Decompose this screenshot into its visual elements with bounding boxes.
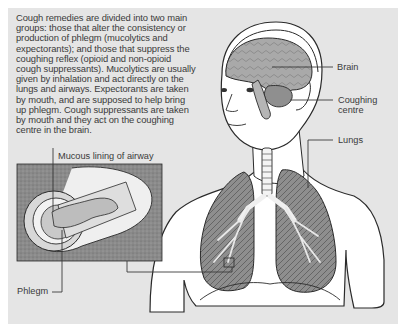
airway-inset	[17, 164, 162, 261]
eye-left	[221, 88, 227, 92]
label-lungs: Lungs	[338, 135, 363, 145]
anatomy-illustration	[0, 0, 408, 324]
label-coughing-centre-2: centre	[338, 105, 364, 115]
label-phlegm: Phlegm	[17, 286, 48, 296]
label-mucous-lining: Mucous lining of airway	[58, 151, 154, 161]
label-coughing-centre-1: Coughing	[338, 95, 377, 105]
eye-right	[247, 88, 254, 92]
label-brain: Brain	[337, 62, 358, 72]
